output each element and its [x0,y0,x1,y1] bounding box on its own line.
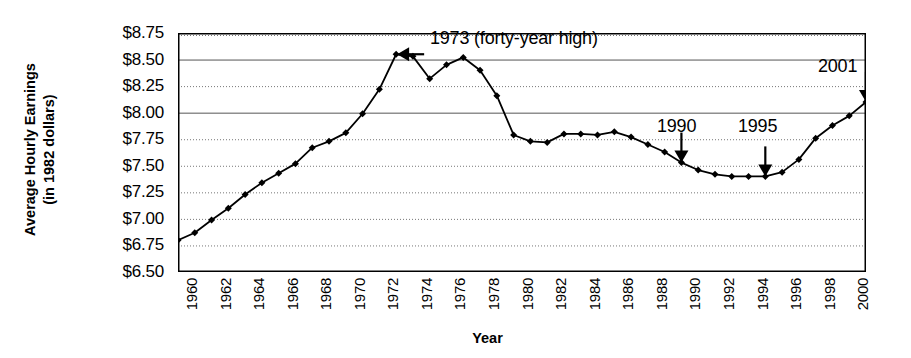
x-tick-label: 1996 [787,278,804,310]
annotation-1990-label: 1990 [657,116,696,137]
chart-figure: Average Hourly Earnings (in 1982 dollars… [0,0,911,358]
y-tick-label: $7.25 [122,182,164,202]
y-tick-label: $8.00 [122,103,164,123]
x-tick-label: 1968 [317,278,334,310]
x-tick-label: 1990 [686,278,703,310]
x-tick-label: 1980 [519,278,536,310]
y-tick-label: $7.75 [122,129,164,149]
y-tick-label: $8.75 [122,23,164,43]
x-tick-label: 1972 [384,278,401,310]
y-tick-label: $7.00 [122,209,164,229]
x-axis-tick-labels: 1960196219641966196819701972197419761978… [178,276,866,336]
x-tick-label: 1976 [451,278,468,310]
x-tick-label: 1966 [284,278,301,310]
x-tick-label: 1984 [586,278,603,310]
x-tick-label: 1988 [653,278,670,310]
annotation-1973-label: 1973 (forty-year high) [430,28,598,49]
y-axis-title-line1: Average Hourly Earnings [20,64,39,237]
y-axis-title-line2: (in 1982 dollars) [39,64,58,237]
y-tick-label: $6.50 [122,262,164,282]
x-tick-label: 1964 [250,278,267,310]
x-tick-label: 1982 [552,278,569,310]
y-axis-title: Average Hourly Earnings (in 1982 dollars… [0,0,78,300]
x-tick-label: 2000 [854,278,871,310]
x-axis-title: Year [0,330,911,346]
x-tick-label: 1986 [619,278,636,310]
annotation-1995-label: 1995 [738,116,777,137]
x-tick-label: 1978 [485,278,502,310]
x-tick-label: 1992 [720,278,737,310]
x-tick-label: 1974 [418,278,435,310]
x-tick-label: 1994 [754,278,771,310]
plot-area [178,33,866,272]
x-tick-label: 1998 [821,278,838,310]
x-axis-title-text: Year [472,330,503,346]
x-tick-label: 1960 [183,278,200,310]
y-tick-label: $8.25 [122,76,164,96]
y-axis-tick-labels: $8.75$8.50$8.25$8.00$7.75$7.50$7.25$7.00… [78,0,170,358]
x-tick-label: 1962 [217,278,234,310]
y-tick-label: $7.50 [122,156,164,176]
x-tick-label: 1970 [351,278,368,310]
chart-canvas [178,33,866,272]
y-tick-label: $8.50 [122,50,164,70]
annotation-2001-label: 2001 [818,56,857,77]
y-tick-label: $6.75 [122,235,164,255]
